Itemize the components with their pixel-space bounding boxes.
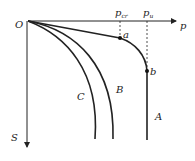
point-a bbox=[118, 36, 122, 40]
curve-b-label: B bbox=[115, 84, 123, 95]
p-axis-label: p bbox=[180, 20, 187, 31]
origin-label: O bbox=[15, 19, 23, 30]
point-b-label: b bbox=[150, 66, 156, 77]
curve-b bbox=[28, 21, 113, 139]
point-b bbox=[145, 69, 149, 73]
load-settlement-diagram: O p S pcr pu a b A B C bbox=[0, 0, 195, 161]
curve-c bbox=[28, 21, 95, 139]
pcr-label: pcr bbox=[115, 7, 129, 19]
curve-c-label: C bbox=[77, 91, 85, 102]
s-axis-label: S bbox=[11, 132, 18, 143]
point-a-label: a bbox=[123, 29, 129, 40]
pu-label: pu bbox=[143, 7, 153, 19]
curve-a-label: A bbox=[154, 111, 162, 122]
